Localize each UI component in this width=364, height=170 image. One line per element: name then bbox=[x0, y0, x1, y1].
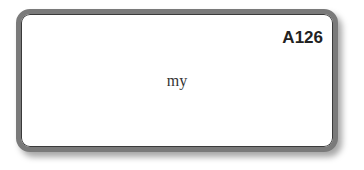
card-code: A126 bbox=[282, 28, 323, 48]
flashcard: A126 my bbox=[16, 9, 338, 152]
card-word: my bbox=[21, 72, 333, 90]
